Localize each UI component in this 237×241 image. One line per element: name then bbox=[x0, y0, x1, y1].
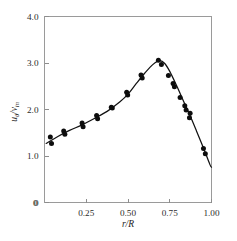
x-tick-label: 0.50 bbox=[120, 208, 136, 218]
data-point bbox=[159, 62, 164, 67]
y-tick-label: 4.0 bbox=[27, 12, 39, 22]
x-tick-label: 0.25 bbox=[78, 208, 94, 218]
data-point bbox=[156, 58, 161, 63]
data-point bbox=[188, 111, 193, 116]
data-point bbox=[81, 124, 86, 129]
data-point bbox=[203, 151, 208, 156]
scatter-plot: 01.02.03.04.0 00.250.500.751.00 uθ/vin r… bbox=[0, 0, 237, 241]
data-point bbox=[166, 73, 171, 78]
data-point bbox=[49, 141, 54, 146]
y-tick-label: 2.0 bbox=[27, 105, 39, 115]
data-point bbox=[187, 115, 192, 120]
data-point bbox=[125, 93, 130, 98]
data-point bbox=[62, 132, 67, 137]
data-point bbox=[110, 106, 115, 111]
data-point bbox=[95, 116, 100, 121]
x-tick-label: 0.75 bbox=[162, 208, 178, 218]
x-tick-label: 1.00 bbox=[203, 208, 219, 218]
y-title-denominator-sub: in bbox=[13, 102, 20, 107]
x-axis-title: r/R bbox=[122, 219, 134, 229]
data-point bbox=[140, 75, 145, 80]
data-point bbox=[201, 146, 206, 151]
x-tick-label: 0 bbox=[33, 198, 38, 208]
data-point bbox=[48, 134, 53, 139]
data-point bbox=[178, 95, 183, 100]
data-point bbox=[172, 84, 177, 89]
chart-figure: 01.02.03.04.0 00.250.500.751.00 uθ/vin r… bbox=[0, 0, 237, 241]
y-tick-label: 3.0 bbox=[27, 58, 39, 68]
y-tick-label: 1.0 bbox=[27, 151, 39, 161]
data-point bbox=[184, 107, 189, 112]
